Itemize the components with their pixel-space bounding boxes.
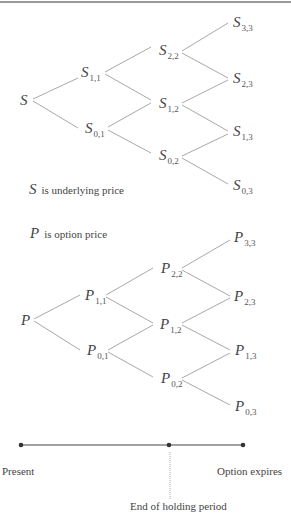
node-s-0-3: S0,3 xyxy=(233,177,253,199)
timeline-expires-label: Option expires xyxy=(217,465,282,477)
node-s-1-3: S1,3 xyxy=(233,123,253,145)
node-s-1-1: S1,1 xyxy=(81,64,101,86)
node-s-root: S xyxy=(20,92,28,108)
node-p-2-3: P2,3 xyxy=(234,288,255,310)
node-p-2-2: P2,2 xyxy=(161,260,182,282)
node-s-0-1: S0,1 xyxy=(85,120,105,142)
underlying-tree-edges xyxy=(33,23,228,184)
legend-underlying: Sis underlying price xyxy=(29,181,124,198)
timeline xyxy=(19,443,246,500)
node-p-3-3: P3,3 xyxy=(234,229,255,251)
node-s-3-3: S3,3 xyxy=(233,14,253,36)
timeline-holding-label: End of holding period xyxy=(130,500,227,512)
option-tree-edges xyxy=(34,240,230,405)
node-p-1-2: P1,2 xyxy=(160,316,181,338)
legend-option: Pis option price xyxy=(30,225,107,242)
node-p-1-1: P1,1 xyxy=(85,287,106,309)
node-p-0-3: P0,3 xyxy=(235,398,256,420)
node-s-2-2: S2,2 xyxy=(159,42,179,64)
node-p-1-3: P1,3 xyxy=(235,342,256,364)
timeline-present-label: Present xyxy=(2,465,34,477)
node-p-0-1: P0,1 xyxy=(87,342,108,364)
node-s-2-3: S2,3 xyxy=(233,70,253,92)
node-p-root: P xyxy=(21,312,30,328)
node-p-0-2: P0,2 xyxy=(161,370,182,392)
node-s-1-2: S1,2 xyxy=(159,95,179,117)
node-s-0-2: S0,2 xyxy=(159,147,179,169)
